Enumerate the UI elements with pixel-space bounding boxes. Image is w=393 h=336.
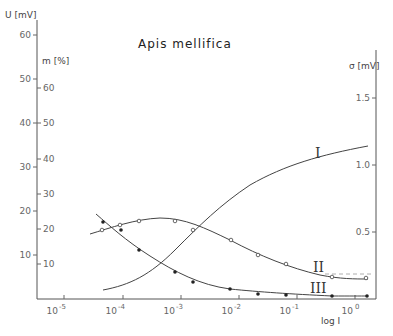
- curve-II: [90, 218, 368, 279]
- x-tick-base: 10: [222, 306, 234, 316]
- sigma-axis-label: σ [mV]: [349, 61, 380, 71]
- curve-II-label: II: [313, 259, 324, 275]
- sigma-tick-1.0: 1.0: [356, 160, 371, 170]
- x-tick-exp: -2: [234, 303, 241, 311]
- m-axis-label: m [%]: [42, 56, 69, 66]
- sigma-axis-ticks: 0.5 1.0 1.5: [356, 93, 376, 237]
- sigma-tick-1.5: 1.5: [356, 93, 370, 103]
- curve-III-label: III: [310, 280, 327, 296]
- u-tick-60: 60: [20, 30, 32, 40]
- curve-I-label: I: [315, 145, 321, 161]
- u-axis-ticks: 10 20 30 40 50 60: [20, 30, 37, 260]
- x-tick-base: 10: [164, 306, 176, 316]
- m-tick-20: 20: [43, 224, 55, 234]
- m-axis-ticks: 10 20 30 40 50 60: [37, 83, 55, 269]
- x-tick-base: 10: [342, 306, 354, 316]
- m-tick-60: 60: [43, 83, 55, 93]
- x-axis-ticks: 10 -5 10 -4 10 -3 10 -2 10 -1 10 0: [47, 295, 360, 316]
- x-tick-exp: -1: [292, 303, 299, 311]
- u-tick-40: 40: [20, 118, 32, 128]
- x-axis-label: log I: [321, 316, 340, 326]
- u-tick-30: 30: [20, 162, 32, 172]
- u-tick-10: 10: [20, 250, 32, 260]
- x-tick-exp: 0: [355, 303, 359, 311]
- x-tick-exp: -4: [118, 303, 126, 311]
- x-tick-exp: -3: [176, 303, 183, 311]
- x-tick-base: 10: [280, 306, 292, 316]
- m-tick-50: 50: [43, 118, 55, 128]
- m-tick-30: 30: [43, 189, 55, 199]
- u-axis-label: U [mV]: [5, 10, 36, 20]
- chart: 10 20 30 40 50 60 U [mV] 10 20 30 40 50 …: [0, 0, 393, 336]
- chart-title: Apis mellifica: [138, 37, 232, 51]
- x-tick-base: 10: [106, 306, 118, 316]
- curve-I: [103, 146, 368, 290]
- curve-III: [96, 214, 368, 296]
- u-tick-20: 20: [20, 206, 32, 216]
- x-tick-exp: -5: [59, 303, 66, 311]
- u-tick-50: 50: [20, 74, 32, 84]
- sigma-tick-0.5: 0.5: [356, 227, 370, 237]
- m-tick-40: 40: [43, 154, 55, 164]
- x-tick-base: 10: [47, 306, 59, 316]
- m-tick-10: 10: [43, 259, 55, 269]
- curve-III-markers: [101, 220, 369, 298]
